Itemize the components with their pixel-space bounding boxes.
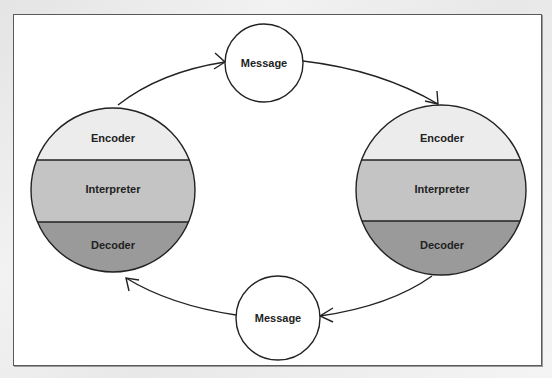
message-bottom-label: Message xyxy=(255,312,301,324)
left-encoder-label: Encoder xyxy=(91,132,136,144)
edge-left-to-top-message xyxy=(118,53,225,105)
right-interpreter-label: Interpreter xyxy=(414,183,470,195)
edge-right-to-bottom-message xyxy=(320,276,432,322)
left-decoder-label: Decoder xyxy=(91,239,136,251)
communication-diagram: Message Message Encoder Interpreter Deco… xyxy=(0,0,552,378)
message-node-bottom: Message xyxy=(236,276,320,360)
message-top-label: Message xyxy=(241,57,287,69)
right-party-node: Encoder Interpreter Decoder xyxy=(356,105,526,276)
left-party-node: Encoder Interpreter Decoder xyxy=(31,108,195,274)
edge-top-message-to-right xyxy=(303,61,438,104)
left-interpreter-label: Interpreter xyxy=(85,183,141,195)
message-node-top: Message xyxy=(225,24,303,102)
arrowhead-icon xyxy=(214,53,225,69)
right-decoder-label: Decoder xyxy=(420,239,465,251)
edge-bottom-message-to-left xyxy=(126,278,236,315)
right-encoder-label: Encoder xyxy=(420,132,465,144)
